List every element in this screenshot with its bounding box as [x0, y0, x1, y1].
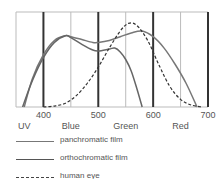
x-tick-label: 400	[36, 110, 51, 120]
band-label-uv: UV	[18, 121, 31, 131]
solid-line-swatch	[16, 141, 54, 142]
panchromatic-film-curve	[24, 31, 197, 107]
legend-label: human eye	[60, 171, 100, 179]
plot-frame	[16, 12, 208, 107]
legend-label: orthochromatic film	[60, 153, 128, 162]
legend-label: panchromatic film	[60, 135, 123, 144]
dashed-line-swatch	[16, 177, 54, 178]
orthochromatic-film-curve	[23, 36, 143, 107]
band-label-green: Green	[113, 121, 138, 131]
x-tick-label: 600	[146, 110, 161, 120]
band-label-blue: Blue	[62, 121, 80, 131]
x-tick-label: 700	[200, 110, 215, 120]
band-label-red: Red	[172, 121, 189, 131]
x-tick-label: 500	[91, 110, 106, 120]
spectral-sensitivity-chart	[0, 0, 224, 110]
curves	[23, 23, 203, 107]
solid-line-swatch	[16, 159, 54, 160]
